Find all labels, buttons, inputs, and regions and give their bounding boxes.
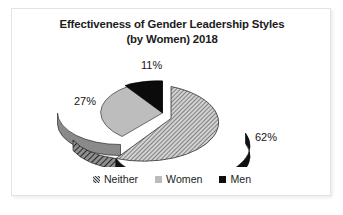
legend-item-women[interactable]: Women bbox=[155, 174, 202, 185]
legend-label-women: Women bbox=[166, 174, 202, 185]
pie-plot-area: 11% 27% 62% bbox=[12, 49, 332, 167]
pie-chart-graphic bbox=[12, 49, 332, 167]
chart-legend: Neither Women Men bbox=[12, 174, 332, 185]
chart-title: Effectiveness of Gender Leadership Style… bbox=[12, 17, 332, 47]
chart-frame: Effectiveness of Gender Leadership Style… bbox=[11, 8, 331, 196]
legend-item-men[interactable]: Men bbox=[219, 174, 251, 185]
legend-swatch-women-icon bbox=[155, 176, 162, 183]
legend-swatch-men-icon bbox=[219, 176, 226, 183]
data-label-men: 11% bbox=[141, 59, 162, 71]
data-label-women: 27% bbox=[74, 95, 96, 107]
chart-title-line-2: (by Women) 2018 bbox=[12, 32, 332, 47]
legend-label-men: Men bbox=[230, 174, 251, 185]
legend-swatch-neither-icon bbox=[93, 176, 100, 183]
legend-item-neither[interactable]: Neither bbox=[93, 174, 138, 185]
chart-title-line-1: Effectiveness of Gender Leadership Style… bbox=[12, 17, 332, 32]
data-label-neither: 62% bbox=[255, 131, 277, 143]
legend-label-neither: Neither bbox=[104, 174, 138, 185]
